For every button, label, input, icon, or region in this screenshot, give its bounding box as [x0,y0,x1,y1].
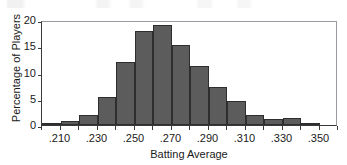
histogram-bar [42,123,61,125]
x-axis-tick-mark [208,126,209,130]
x-axis-tick-mark [263,126,264,130]
histogram-bar [153,25,172,125]
x-axis-tick-mark [78,126,79,130]
x-axis-tick-label: .230 [80,132,114,145]
histogram-bar [264,119,283,125]
y-axis-tick-mark [38,48,42,49]
histogram-figure: Percentage of Players 05101520 .210.230.… [0,0,347,165]
histogram-bar [116,62,135,125]
x-axis-tick-label: .310 [228,132,262,145]
bar-series [42,22,336,125]
x-axis-tick-label: .270 [154,132,188,145]
x-axis-tick-labels: .210.230.250.270.290.310.330.350 [41,132,337,146]
x-axis-tick-mark [337,126,338,130]
x-axis-tick-label: .290 [191,132,225,145]
x-axis-tick-label: .330 [265,132,299,145]
histogram-bar [172,45,191,125]
x-axis-tick-mark [171,126,172,130]
histogram-bar [190,66,209,125]
x-axis-tick-mark [134,126,135,130]
histogram-bar [79,115,98,126]
y-axis-tick-label: 5 [18,94,36,105]
y-axis-tick-mark [38,101,42,102]
y-axis-tick-label: 20 [18,15,36,26]
histogram-bar [98,97,117,125]
histogram-bar [301,123,320,125]
histogram-bar [135,31,154,126]
histogram-bar [246,115,265,126]
y-axis-tick-mark [38,75,42,76]
histogram-bar [61,121,80,125]
x-axis-tick-mark [319,126,320,130]
x-axis-tick-label: .250 [117,132,151,145]
scan-artifact [0,0,347,8]
x-axis-tick-mark [41,126,42,130]
x-axis-tick-mark [282,126,283,130]
y-axis-tick-label: 10 [18,68,36,79]
x-axis-tick-mark [152,126,153,130]
histogram-bar [209,87,228,125]
y-axis-tick-mark [38,22,42,23]
x-axis-tick-label: .210 [43,132,77,145]
y-axis-tick-label: 0 [18,120,36,131]
x-axis-title: Batting Average [41,148,337,161]
histogram-bar [283,118,302,125]
histogram-bar [227,101,246,125]
x-axis-tick-mark [97,126,98,130]
x-axis-tick-mark [245,126,246,130]
plot-area [41,21,337,126]
x-axis-tick-marks [41,126,337,131]
x-axis-tick-mark [300,126,301,130]
x-axis-tick-mark [189,126,190,130]
x-axis-tick-mark [115,126,116,130]
y-axis-tick-label: 15 [18,41,36,52]
x-axis-tick-mark [226,126,227,130]
x-axis-tick-label: .350 [302,132,336,145]
y-axis-tick-labels: 05101520 [18,0,36,165]
x-axis-tick-mark [60,126,61,130]
